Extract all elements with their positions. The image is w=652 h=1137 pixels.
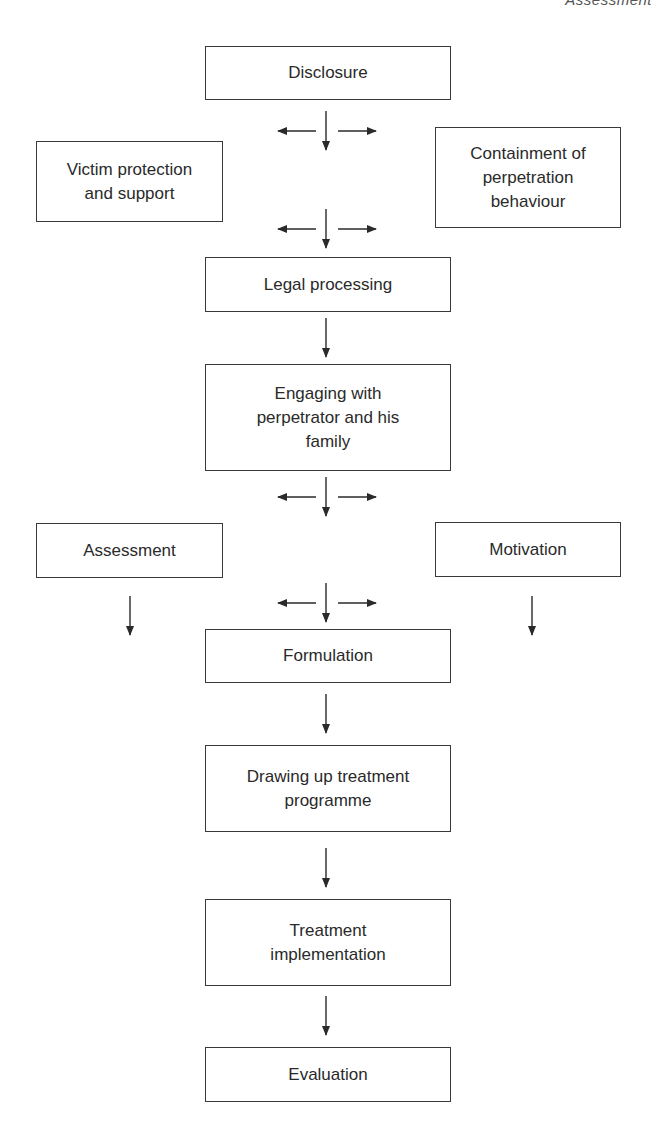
node-treatment-implementation: Treatment implementation: [205, 899, 451, 986]
node-label: Victim protection and support: [67, 158, 192, 206]
node-label: Engaging with perpetrator and his family: [257, 382, 400, 454]
node-label: Legal processing: [264, 273, 393, 297]
node-formulation: Formulation: [205, 629, 451, 683]
node-label: Disclosure: [288, 61, 367, 85]
node-label: Containment of perpetration behaviour: [470, 142, 585, 214]
node-label: Drawing up treatment programme: [247, 765, 410, 813]
node-label: Treatment implementation: [270, 919, 385, 967]
node-legal-processing: Legal processing: [205, 257, 451, 312]
node-label: Evaluation: [288, 1063, 367, 1087]
node-label: Motivation: [489, 538, 566, 562]
node-drawing-up-treatment: Drawing up treatment programme: [205, 745, 451, 832]
node-motivation: Motivation: [435, 522, 621, 577]
node-label: Formulation: [283, 644, 373, 668]
node-containment: Containment of perpetration behaviour: [435, 127, 621, 228]
node-victim-protection: Victim protection and support: [36, 141, 223, 222]
node-disclosure: Disclosure: [205, 46, 451, 100]
node-evaluation: Evaluation: [205, 1047, 451, 1102]
node-engaging: Engaging with perpetrator and his family: [205, 364, 451, 471]
node-label: Assessment: [83, 539, 176, 563]
node-assessment: Assessment: [36, 523, 223, 578]
